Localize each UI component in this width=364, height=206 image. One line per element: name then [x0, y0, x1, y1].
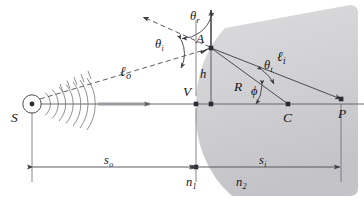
label-point-A: A [196, 32, 204, 46]
label-theta-r: θr [190, 10, 199, 23]
n2-sub: 2 [243, 182, 247, 191]
ell-i-glyph: ℓ [277, 48, 283, 64]
n1-glyph: n [186, 175, 192, 189]
label-theta-t: θt [264, 59, 272, 72]
label-ell-i: ℓi [277, 50, 285, 64]
label-so: so [104, 154, 113, 167]
n1-sub: 1 [193, 182, 197, 191]
label-source-S: S [11, 111, 18, 125]
diagram-canvas [0, 0, 364, 206]
label-center-C: C [283, 111, 292, 125]
theta-r-sub: r [196, 16, 199, 25]
label-image-P: P [338, 107, 346, 121]
label-ell-o: ℓo [120, 65, 131, 79]
theta-i-sub: i [161, 44, 163, 53]
label-n2: n2 [236, 176, 246, 189]
n2-glyph: n [236, 175, 242, 189]
source-marker [23, 95, 41, 113]
ell-i-sub: i [283, 56, 286, 66]
label-n1: n1 [186, 176, 196, 189]
label-si: si [259, 154, 266, 167]
so-sub: o [109, 160, 113, 169]
ell-o-glyph: ℓ [120, 63, 126, 79]
label-theta-i: θi [155, 38, 163, 51]
ell-o-sub: o [126, 71, 131, 81]
angle-arc-theta-i [181, 40, 184, 69]
theta-t-sub: t [270, 65, 272, 74]
dimension-line-so [33, 165, 198, 170]
label-radius-R: R [234, 80, 242, 94]
label-vertex-V: V [183, 85, 191, 99]
refraction-diagram: S V A C P θr θi θt ϕ ℓo ℓi h R so si n1 … [0, 0, 364, 206]
label-height-h: h [200, 68, 206, 81]
label-phi: ϕ [251, 85, 257, 98]
